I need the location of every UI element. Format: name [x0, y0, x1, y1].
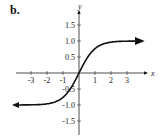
- y-tick-label: 1.5: [65, 21, 75, 30]
- y-axis-label: y: [77, 2, 82, 11]
- x-tick-label: 3: [125, 76, 129, 85]
- left-arrow-icon: [12, 102, 19, 108]
- x-tick-label: -3: [28, 76, 35, 85]
- y-tick-label: 0.5: [65, 53, 75, 62]
- x-tick-label: -2: [44, 76, 51, 85]
- x-tick-label: 2: [109, 76, 113, 85]
- x-tick-label: 1: [93, 76, 97, 85]
- x-axis-label: x: [150, 69, 155, 78]
- function-graph: xy-3-2-11231.51.00.5-0.5-1.0-1.5: [0, 0, 163, 138]
- y-tick-label: 1.0: [65, 37, 75, 46]
- y-tick-label: -1.5: [62, 117, 75, 126]
- y-tick-label: -1.0: [62, 101, 75, 110]
- x-tick-label: -1: [60, 76, 67, 85]
- y-tick-label: -0.5: [62, 85, 75, 94]
